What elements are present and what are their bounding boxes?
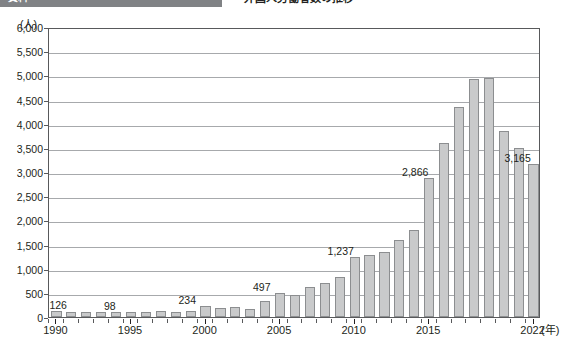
x-axis-tick-mark — [182, 319, 183, 323]
bar — [260, 301, 270, 317]
bar — [81, 312, 91, 317]
x-axis-major-tick-mark — [130, 319, 131, 324]
gridline — [49, 126, 539, 127]
y-axis-tick-label: 500 — [0, 289, 43, 300]
x-axis-tick-mark — [152, 319, 153, 323]
x-axis-tick-mark — [242, 319, 243, 323]
y-axis-tick-label: 0 — [0, 313, 43, 324]
y-axis-tick-label: 4,500 — [0, 96, 43, 107]
bar — [439, 143, 449, 317]
bar-value-label: 497 — [253, 282, 271, 293]
x-axis-tick-mark — [525, 319, 526, 323]
x-axis-major-tick-mark — [279, 319, 280, 324]
bar-chart: (人) 6,0005,5005,0004,5004,0003,5003,0002… — [0, 0, 573, 345]
x-axis-tick-mark — [451, 319, 452, 323]
gridline — [49, 271, 539, 272]
bar — [96, 312, 106, 317]
bar — [156, 311, 166, 317]
x-axis-tick-mark — [137, 319, 138, 323]
x-axis-tick-mark — [78, 319, 79, 323]
x-axis-tick-mark — [272, 319, 273, 323]
x-axis-tick-mark — [376, 319, 377, 323]
x-axis-tick-mark — [257, 319, 258, 323]
gridline — [49, 53, 539, 54]
bar — [379, 252, 389, 317]
y-axis-tick-label: 3,500 — [0, 144, 43, 155]
bar-value-label: 234 — [178, 295, 196, 306]
bar — [171, 312, 181, 317]
y-axis-tick-label: 1,500 — [0, 241, 43, 252]
x-axis-tick-mark — [331, 319, 332, 323]
bar — [394, 240, 404, 317]
bar — [111, 312, 121, 317]
bar — [335, 277, 345, 317]
bar-value-label: 2,866 — [402, 167, 428, 178]
x-axis-tick-mark — [212, 319, 213, 323]
x-axis-tick-mark — [406, 319, 407, 323]
bar — [275, 293, 285, 317]
plot-area: 126982344971,2372,8663,165 — [48, 28, 540, 318]
bar — [364, 255, 374, 317]
x-axis-tick-mark — [63, 319, 64, 323]
gridline — [49, 102, 539, 103]
bar — [126, 312, 136, 317]
y-axis-tick-label: 1,000 — [0, 265, 43, 276]
bar — [514, 148, 524, 317]
bar — [66, 312, 76, 317]
y-axis-tick-label: 2,000 — [0, 216, 43, 227]
gridline — [49, 174, 539, 175]
bar — [200, 306, 210, 317]
bar — [454, 107, 464, 317]
x-axis-tick-mark — [495, 319, 496, 323]
x-axis-tick-mark — [301, 319, 302, 323]
bar — [484, 78, 494, 317]
x-axis-major-tick-mark — [55, 319, 56, 324]
bar — [469, 79, 479, 317]
x-axis-tick-label: 2010 — [341, 325, 365, 336]
x-axis-major-tick-mark — [205, 319, 206, 324]
x-axis-major-tick-mark — [533, 319, 534, 324]
bar — [230, 307, 240, 317]
x-axis-tick-mark — [167, 319, 168, 323]
bar — [245, 309, 255, 317]
bar-value-label: 98 — [104, 301, 116, 312]
y-axis-tick-label: 6,000 — [0, 23, 43, 34]
gridline — [49, 222, 539, 223]
bar — [528, 164, 538, 317]
x-axis-tick-mark — [510, 319, 511, 323]
bar — [186, 311, 196, 317]
x-axis-major-tick-mark — [354, 319, 355, 324]
x-axis-tick-mark — [421, 319, 422, 323]
bar — [424, 178, 434, 317]
x-axis-tick-label: 2000 — [192, 325, 216, 336]
y-axis-tick-label: 2,500 — [0, 192, 43, 203]
x-axis-tick-mark — [227, 319, 228, 323]
x-axis-tick-label: 1990 — [43, 325, 67, 336]
bar — [320, 283, 330, 317]
bar-value-label: 3,165 — [504, 153, 530, 164]
gridline — [49, 247, 539, 248]
x-axis-tick-mark — [361, 319, 362, 323]
bar — [290, 295, 300, 317]
bar — [51, 311, 61, 317]
y-axis-tick-label: 5,000 — [0, 71, 43, 82]
x-axis-tick-mark — [93, 319, 94, 323]
y-axis-tick-label: 5,500 — [0, 47, 43, 58]
x-axis-tick-mark — [123, 319, 124, 323]
bar — [350, 257, 360, 317]
x-axis-tick-mark — [480, 319, 481, 323]
x-axis-tick-label: 2005 — [267, 325, 291, 336]
x-axis-tick-mark — [287, 319, 288, 323]
bar-value-label: 126 — [49, 300, 67, 311]
gridline — [49, 198, 539, 199]
x-axis-tick-label: 1995 — [118, 325, 142, 336]
x-axis-tick-mark — [391, 319, 392, 323]
x-axis-tick-mark — [436, 319, 437, 323]
x-axis-tick-mark — [346, 319, 347, 323]
y-axis-tick-label: 3,000 — [0, 168, 43, 179]
x-axis-tick-label: 2015 — [416, 325, 440, 336]
x-axis-unit-label: (年) — [541, 325, 559, 336]
x-axis-tick-mark — [316, 319, 317, 323]
x-axis-tick-mark — [465, 319, 466, 323]
gridline — [49, 150, 539, 151]
